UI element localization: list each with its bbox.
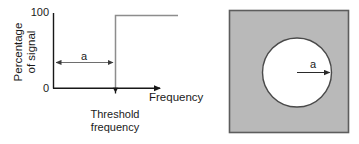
- chart-svg: 100 0 Percentage of signal Frequency Thr…: [0, 0, 220, 144]
- figure-root: 100 0 Percentage of signal Frequency Thr…: [0, 0, 359, 144]
- x-axis-title: Frequency: [149, 91, 204, 103]
- y-axis-title-line1: Percentage: [12, 23, 24, 82]
- dimension-a-label: a: [81, 50, 88, 62]
- y-axis-title: Percentage of signal: [12, 23, 37, 82]
- y-tick-label-100: 100: [31, 6, 49, 18]
- threshold-label-line2: frequency: [91, 121, 140, 133]
- y-axis-title-line2: of signal: [25, 31, 37, 74]
- threshold-label-line1: Threshold: [91, 108, 140, 120]
- step-curve: [116, 16, 179, 89]
- signal-frequency-chart: 100 0 Percentage of signal Frequency Thr…: [0, 0, 220, 144]
- y-tick-label-0: 0: [43, 82, 49, 94]
- radius-label: a: [310, 58, 317, 70]
- aperture-svg: a: [220, 0, 359, 144]
- threshold-tick-marker: [113, 88, 118, 93]
- circular-aperture-diagram: a: [220, 0, 359, 144]
